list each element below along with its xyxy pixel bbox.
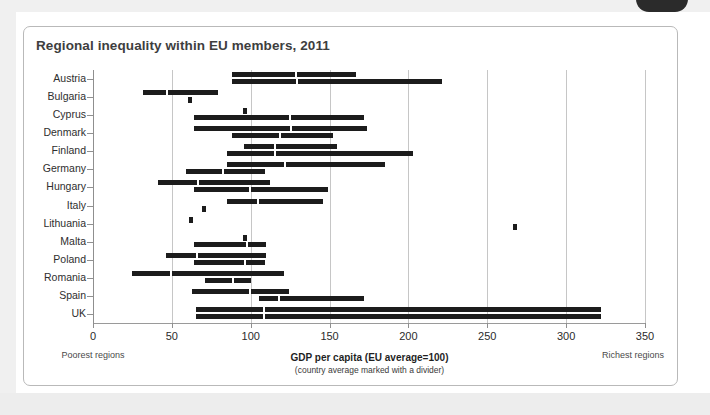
- y-axis-labels: AustriaBulgariaCyprusDenmarkFinlandGerma…: [0, 70, 86, 323]
- average-divider: [232, 277, 234, 286]
- y-tick: [87, 314, 93, 315]
- page-title: Regional inequality within EU members, 2…: [36, 38, 330, 53]
- y-axis-label-spain: Spain: [0, 290, 86, 301]
- page-margin-bottom: [0, 393, 710, 415]
- x-axis-sublabel: (country average marked with a divider): [93, 365, 646, 375]
- gridline: [487, 70, 488, 323]
- bar-uk: [196, 307, 601, 312]
- y-axis-label-malta: Malta: [0, 236, 86, 247]
- bar-cyprus: [243, 108, 247, 114]
- y-tick: [87, 278, 93, 279]
- gridline: [172, 70, 173, 323]
- bar-romania: [205, 278, 251, 283]
- bar-uk: [196, 314, 601, 319]
- y-axis-label-uk: UK: [0, 308, 86, 319]
- gridline: [330, 70, 331, 323]
- average-divider: [279, 132, 281, 141]
- bar-finland: [244, 144, 337, 149]
- gridline: [408, 70, 409, 323]
- average-divider: [289, 114, 291, 123]
- average-divider: [263, 313, 265, 322]
- bar-italy: [227, 199, 323, 204]
- gridline: [251, 70, 252, 323]
- y-tick: [87, 224, 93, 225]
- y-axis-label-germany: Germany: [0, 163, 86, 174]
- average-divider: [296, 78, 298, 87]
- y-tick: [87, 187, 93, 188]
- x-tick: [172, 323, 173, 328]
- bar-italy: [202, 206, 206, 212]
- x-tick: [330, 323, 331, 328]
- page-margin-top: [0, 0, 710, 12]
- y-tick: [87, 133, 93, 134]
- x-tick-label: 250: [467, 330, 507, 342]
- x-tick-label: 0: [73, 330, 113, 342]
- average-divider: [284, 161, 286, 170]
- x-tick-label: 150: [310, 330, 350, 342]
- bar-hungary: [158, 180, 270, 185]
- y-tick: [87, 115, 93, 116]
- x-axis-label: GDP per capita (EU average=100): [93, 352, 646, 363]
- bar-germany: [227, 162, 385, 167]
- average-divider: [170, 270, 172, 279]
- bar-romania: [132, 271, 283, 276]
- bar-bulgaria: [188, 97, 192, 103]
- y-tick: [87, 79, 93, 80]
- x-tick-label: 350: [625, 330, 665, 342]
- average-divider: [278, 295, 280, 304]
- x-tick-label: 50: [152, 330, 192, 342]
- average-divider: [274, 150, 276, 159]
- bar-hungary: [194, 187, 328, 192]
- y-tick: [87, 296, 93, 297]
- y-tick: [87, 206, 93, 207]
- richest-regions-note: Richest regions: [598, 350, 668, 362]
- average-divider: [244, 259, 246, 268]
- bar-denmark: [232, 133, 333, 138]
- x-tick: [251, 323, 252, 328]
- bar-austria: [232, 79, 442, 84]
- y-axis-line: [93, 70, 94, 324]
- average-divider: [249, 186, 251, 195]
- y-axis-label-romania: Romania: [0, 272, 86, 283]
- y-tick: [87, 169, 93, 170]
- bar-germany: [186, 169, 265, 174]
- x-tick: [93, 323, 94, 328]
- bar-cyprus: [194, 115, 364, 120]
- y-axis-label-austria: Austria: [0, 73, 86, 84]
- bar-spain: [192, 289, 288, 294]
- bar-poland: [194, 260, 265, 265]
- y-axis-label-cyprus: Cyprus: [0, 109, 86, 120]
- bar-lithuania: [189, 217, 193, 223]
- average-divider: [249, 288, 251, 297]
- y-axis-label-italy: Italy: [0, 200, 86, 211]
- y-tick: [87, 242, 93, 243]
- average-divider: [257, 198, 259, 207]
- poorest-regions-note: Poorest regions: [58, 350, 128, 362]
- x-tick: [645, 323, 646, 328]
- y-tick: [87, 260, 93, 261]
- gridline: [645, 70, 646, 323]
- y-axis-label-bulgaria: Bulgaria: [0, 91, 86, 102]
- x-tick: [408, 323, 409, 328]
- bar-lithuania: [513, 224, 517, 230]
- x-tick-label: 200: [388, 330, 428, 342]
- bar-denmark: [194, 126, 367, 131]
- x-tick-label: 300: [546, 330, 586, 342]
- average-divider: [166, 89, 168, 98]
- bar-spain: [259, 296, 365, 301]
- y-tick: [87, 97, 93, 98]
- bar-bulgaria: [143, 90, 217, 95]
- chart-page: Regional inequality within EU members, 2…: [0, 0, 710, 415]
- page-corner-tab: [636, 0, 688, 12]
- y-axis-label-lithuania: Lithuania: [0, 218, 86, 229]
- y-axis-label-denmark: Denmark: [0, 127, 86, 138]
- x-tick: [487, 323, 488, 328]
- y-axis-label-hungary: Hungary: [0, 181, 86, 192]
- x-tick-label: 100: [231, 330, 271, 342]
- y-axis-label-poland: Poland: [0, 254, 86, 265]
- x-axis-line: [93, 323, 646, 324]
- bar-finland: [227, 151, 413, 156]
- average-divider: [222, 168, 224, 177]
- gridline: [566, 70, 567, 323]
- average-divider: [246, 241, 248, 250]
